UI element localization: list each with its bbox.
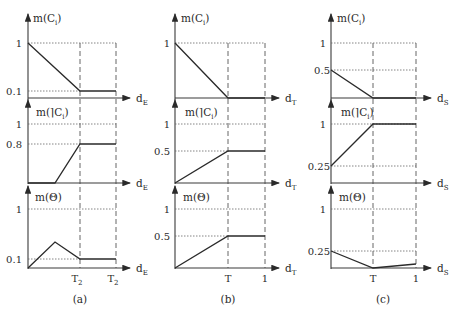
ytick-05: 0.5 xyxy=(154,146,170,157)
ylabel-mtheta: m(Θ) xyxy=(183,191,210,203)
subplot-b-mtheta: m(Θ) 1 0.5 dT T 1 xyxy=(154,186,297,284)
panel-a: m(Ci) 1 0.1 dE m(⌉Ci) 1 0.8 dE m(Θ) 1 xyxy=(6,12,148,305)
subplot-b-mci: m(Ci) 1 dT xyxy=(164,12,297,107)
xtick-t: T xyxy=(370,273,377,284)
ytick-08: 0.8 xyxy=(6,139,22,150)
xlabel-ds: dS xyxy=(437,92,449,107)
curve-mtheta xyxy=(28,242,116,268)
ytick-1: 1 xyxy=(320,119,326,130)
ytick-1: 1 xyxy=(164,38,170,49)
curve-mci xyxy=(28,43,116,91)
xtick-t2-right: T2 xyxy=(107,273,118,287)
ylabel-mci: m(Ci) xyxy=(33,12,61,27)
curve-mtheta xyxy=(331,251,416,268)
ytick-1: 1 xyxy=(16,38,22,49)
ytick-01: 0.1 xyxy=(6,254,22,265)
figure-canvas: m(Ci) 1 0.1 dE m(⌉Ci) 1 0.8 dE m(Θ) 1 xyxy=(0,0,457,309)
curve-mci xyxy=(175,43,265,98)
subplot-c-mci: m(Ci) 1 0.5 dS xyxy=(314,12,449,107)
xlabel-de: dE xyxy=(136,262,148,277)
ytick-025: 0.25 xyxy=(308,161,330,172)
ylabel-mci: m(Ci) xyxy=(337,12,365,27)
xlabel-ds: dS xyxy=(437,262,449,277)
xlabel-dt: dT xyxy=(285,262,297,277)
curve-mci xyxy=(331,70,416,98)
xlabel-de: dE xyxy=(136,92,148,107)
ylabel-mtheta: m(Θ) xyxy=(35,191,62,203)
ytick-05: 0.5 xyxy=(154,231,170,242)
curve-mtheta xyxy=(175,236,265,268)
caption-c: (c) xyxy=(376,293,390,305)
ytick-1: 1 xyxy=(320,38,326,49)
xtick-t: T xyxy=(225,273,232,284)
ylabel-mtheta: m(Θ) xyxy=(339,191,366,203)
panel-c: m(Ci) 1 0.5 dS m(⌉Ci) 1 0.25 dS m(Θ) 1 0… xyxy=(308,12,449,305)
ytick-1: 1 xyxy=(164,119,170,130)
ytick-05: 0.5 xyxy=(314,65,330,76)
ylabel-mnotci: m(⌉Ci) xyxy=(185,106,218,121)
ytick-1: 1 xyxy=(16,204,22,215)
ytick-1: 1 xyxy=(16,119,22,130)
subplot-c-mtheta: m(Θ) 1 0.25 dS T 1 xyxy=(308,186,449,284)
xlabel-dt: dT xyxy=(285,177,297,192)
ylabel-mci: m(Ci) xyxy=(181,12,209,27)
ylabel-mnotci: m(⌉Ci) xyxy=(36,106,69,121)
curve-mnotci xyxy=(331,124,416,166)
xlabel-dt: dT xyxy=(285,92,297,107)
ytick-025: 0.25 xyxy=(308,246,330,257)
subplot-b-mnotci: m(⌉Ci) 1 0.5 dT xyxy=(154,100,297,192)
xtick-1: 1 xyxy=(413,273,419,284)
ytick-01: 0.1 xyxy=(6,86,22,97)
ylabel-mnotci: m(⌉Ci) xyxy=(341,106,374,121)
panel-b: m(Ci) 1 dT m(⌉Ci) 1 0.5 dT m(Θ) 1 0.5 dT… xyxy=(154,12,297,305)
caption-a: (a) xyxy=(73,293,87,305)
ytick-1: 1 xyxy=(164,204,170,215)
curve-mnotci xyxy=(175,151,265,183)
xtick-t2: T2 xyxy=(71,273,82,287)
subplot-a-mtheta: m(Θ) 1 0.1 dE T2 T2 xyxy=(6,186,148,287)
curve-mnotci xyxy=(28,144,116,183)
subplot-a-mnotci: m(⌉Ci) 1 0.8 dE xyxy=(6,100,148,192)
caption-b: (b) xyxy=(221,293,236,305)
xtick-1: 1 xyxy=(262,273,268,284)
subplot-c-mnotci: m(⌉Ci) 1 0.25 dS xyxy=(308,100,449,192)
ytick-1: 1 xyxy=(320,204,326,215)
subplot-a-mci: m(Ci) 1 0.1 dE xyxy=(6,12,148,107)
xlabel-ds: dS xyxy=(437,177,449,192)
xlabel-de: dE xyxy=(136,177,148,192)
